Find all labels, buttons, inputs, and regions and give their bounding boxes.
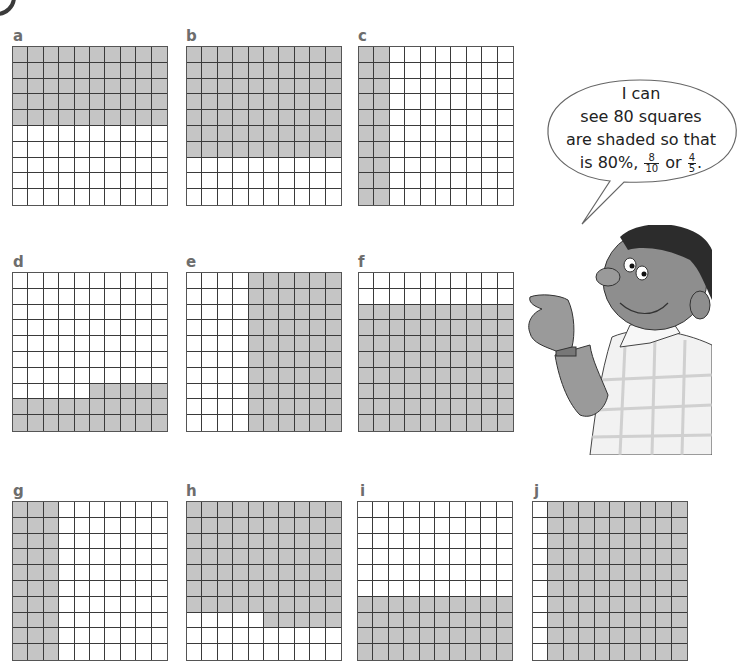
- shaded-square: [641, 628, 656, 644]
- unshaded-square: [533, 549, 548, 565]
- shaded-square: [310, 534, 325, 550]
- unshaded-square: [187, 368, 202, 384]
- fraction-denominator: 5: [688, 164, 696, 174]
- unshaded-square: [75, 142, 90, 158]
- shaded-square: [358, 628, 373, 644]
- unshaded-square: [202, 289, 217, 305]
- unshaded-square: [326, 189, 341, 205]
- unshaded-square: [136, 189, 151, 205]
- shaded-square: [610, 565, 625, 581]
- unshaded-square: [28, 189, 43, 205]
- unshaded-square: [435, 518, 450, 534]
- shaded-square: [218, 94, 233, 110]
- unshaded-square: [202, 613, 217, 629]
- unshaded-square: [358, 502, 373, 518]
- shaded-square: [264, 415, 279, 431]
- unshaded-square: [13, 273, 28, 289]
- unshaded-square: [136, 305, 151, 321]
- shaded-square: [482, 384, 497, 400]
- shaded-square: [279, 126, 294, 142]
- unshaded-square: [420, 549, 435, 565]
- unshaded-square: [436, 289, 451, 305]
- shaded-square: [405, 399, 420, 415]
- unshaded-square: [497, 581, 512, 597]
- unshaded-square: [59, 158, 74, 174]
- unshaded-square: [59, 549, 74, 565]
- unshaded-square: [152, 352, 167, 368]
- unshaded-square: [436, 142, 451, 158]
- unshaded-square: [28, 273, 43, 289]
- unshaded-square: [13, 352, 28, 368]
- shaded-square: [279, 305, 294, 321]
- unshaded-square: [75, 305, 90, 321]
- unshaded-square: [13, 320, 28, 336]
- unshaded-square: [295, 644, 310, 660]
- unshaded-square: [295, 189, 310, 205]
- shaded-square: [625, 644, 640, 660]
- shaded-square: [436, 352, 451, 368]
- unshaded-square: [467, 158, 482, 174]
- unshaded-square: [497, 502, 512, 518]
- shaded-square: [249, 273, 264, 289]
- unshaded-square: [105, 368, 120, 384]
- corner-arc-decoration: [0, 0, 16, 16]
- shaded-square: [279, 352, 294, 368]
- shaded-square: [295, 289, 310, 305]
- unshaded-square: [390, 94, 405, 110]
- shaded-square: [359, 142, 374, 158]
- shaded-square: [359, 173, 374, 189]
- unshaded-square: [59, 581, 74, 597]
- shaded-square: [218, 549, 233, 565]
- unshaded-square: [404, 502, 419, 518]
- unshaded-square: [202, 305, 217, 321]
- unshaded-square: [233, 173, 248, 189]
- unshaded-square: [498, 173, 513, 189]
- unshaded-square: [264, 173, 279, 189]
- unshaded-square: [105, 173, 120, 189]
- unshaded-square: [466, 581, 481, 597]
- unshaded-square: [75, 336, 90, 352]
- shaded-square: [374, 352, 389, 368]
- unshaded-square: [75, 352, 90, 368]
- shaded-square: [279, 320, 294, 336]
- unshaded-square: [326, 158, 341, 174]
- shaded-square: [233, 581, 248, 597]
- unshaded-square: [13, 189, 28, 205]
- shaded-square: [451, 399, 466, 415]
- shaded-square: [13, 518, 28, 534]
- unshaded-square: [75, 628, 90, 644]
- shaded-square: [497, 613, 512, 629]
- shaded-square: [249, 399, 264, 415]
- shaded-square: [28, 581, 43, 597]
- shaded-square: [481, 644, 496, 660]
- shaded-square: [548, 628, 563, 644]
- shaded-square: [481, 613, 496, 629]
- shaded-square: [548, 549, 563, 565]
- unshaded-square: [466, 502, 481, 518]
- unshaded-square: [75, 126, 90, 142]
- unshaded-square: [481, 549, 496, 565]
- unshaded-square: [90, 305, 105, 321]
- shaded-square: [264, 142, 279, 158]
- shaded-square: [326, 47, 341, 63]
- shaded-square: [467, 415, 482, 431]
- shaded-square: [187, 142, 202, 158]
- shaded-square: [435, 597, 450, 613]
- shaded-square: [672, 534, 687, 550]
- shaded-square: [218, 565, 233, 581]
- shaded-square: [264, 581, 279, 597]
- shaded-square: [279, 549, 294, 565]
- shaded-square: [310, 368, 325, 384]
- shaded-square: [152, 47, 167, 63]
- shaded-square: [564, 581, 579, 597]
- unshaded-square: [121, 273, 136, 289]
- unshaded-square: [482, 158, 497, 174]
- shaded-square: [310, 352, 325, 368]
- shaded-square: [28, 565, 43, 581]
- unshaded-square: [13, 305, 28, 321]
- unshaded-square: [373, 581, 388, 597]
- grid-label-e: e: [186, 255, 196, 270]
- shaded-square: [359, 79, 374, 95]
- unshaded-square: [90, 189, 105, 205]
- unshaded-square: [75, 189, 90, 205]
